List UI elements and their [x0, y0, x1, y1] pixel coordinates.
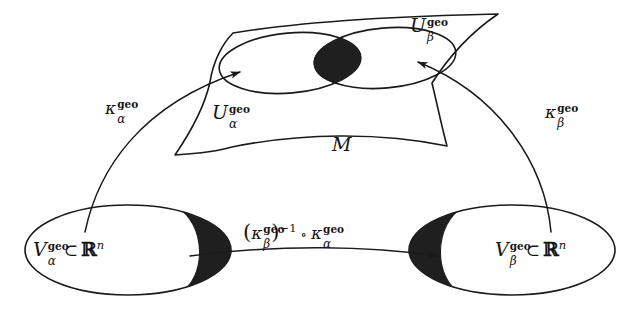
label-image-alpha: Vgeoα⊂ℝn	[33, 240, 104, 259]
label-chart-map-alpha: κgeoα	[105, 100, 116, 117]
label-image-beta: Vgeoβ⊂ℝn	[495, 240, 566, 259]
label-transition-map: (κgeoβ)−1∘κgeoα	[243, 222, 322, 243]
diagram-canvas	[0, 0, 639, 312]
label-chart-domain-beta: Ugeoβ	[410, 16, 426, 35]
label-manifold: M	[332, 135, 351, 154]
image-overlap-region-alpha	[176, 207, 238, 294]
label-chart-domain-alpha: Ugeoα	[212, 103, 228, 122]
manifold-chart-diagram: Ugeoβ Ugeoα M κgeoα κgeoβ Vgeoα⊂ℝn Vgeoβ…	[0, 0, 639, 312]
label-chart-map-beta: κgeoβ	[545, 104, 556, 121]
image-overlap-region-beta	[402, 207, 464, 294]
